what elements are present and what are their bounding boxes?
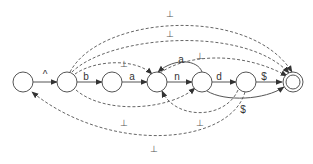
- state-s6-accepting-inner: [286, 75, 300, 89]
- label-s4-s3-a: a: [178, 54, 184, 65]
- state-s1: [57, 72, 77, 92]
- label-s2-s3: a: [129, 71, 135, 82]
- label-s5-s0: ⊥: [150, 144, 158, 154]
- label-s3-s6: ⊥: [196, 51, 204, 61]
- label-s3-s4: n: [174, 71, 180, 82]
- label-s1-s2: b: [83, 71, 89, 82]
- label-s0-s1: ^: [43, 69, 48, 80]
- edge-s5-s0: [32, 92, 245, 136]
- label-s1-s6-outer: ⊥: [166, 9, 174, 19]
- state-s2: [102, 72, 122, 92]
- label-s4-s5: d: [216, 71, 222, 82]
- state-s0: [13, 72, 33, 92]
- state-s5: [236, 72, 256, 92]
- label-s4-s3-bottom: ⊥: [196, 118, 204, 128]
- label-s1-s6-inner: ⊥: [166, 29, 174, 39]
- edge-s1-s6-outer: [70, 25, 292, 72]
- label-s1-s4: ⊥: [120, 118, 128, 128]
- label-s4-s6-dollar: $: [240, 104, 246, 115]
- label-s1-s3: ⊥: [120, 59, 128, 69]
- automaton-diagram: ^ b a n a d $ $ ⊥ ⊥ ⊥ ⊥ ⊥ ⊥ ⊥: [0, 0, 313, 164]
- label-s5-s6: $: [261, 71, 267, 82]
- state-s3: [147, 72, 167, 92]
- edge-s4-s3: [162, 90, 238, 113]
- edge-s1-s4: [76, 88, 195, 107]
- state-s4: [192, 72, 212, 92]
